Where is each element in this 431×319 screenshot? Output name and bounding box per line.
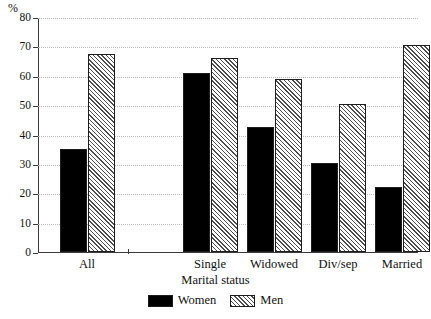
x-tick-label: Widowed: [250, 258, 298, 271]
bar-single-women: [183, 73, 210, 252]
bar-married-women: [375, 187, 402, 253]
legend-item-women: Women: [148, 294, 217, 307]
legend-label-men: Men: [260, 294, 283, 307]
y-tick-mark: [33, 18, 38, 19]
y-tick-label: 0: [25, 247, 31, 259]
chart-legend: Women Men: [0, 294, 431, 307]
hatched-swatch-icon: [230, 295, 255, 307]
y-tick-label: 70: [20, 42, 32, 54]
axis-break-tick: [128, 249, 129, 254]
x-axis-title: Marital status: [0, 274, 431, 287]
y-tick-label: 60: [20, 71, 32, 83]
bar-group: [311, 18, 366, 252]
y-tick-mark: [33, 106, 38, 107]
y-tick-mark: [33, 47, 38, 48]
y-tick-mark: [33, 136, 38, 137]
y-tick-label: 30: [20, 159, 32, 171]
bar-all-men: [88, 54, 115, 252]
y-tick-label: 50: [20, 100, 32, 112]
y-tick-mark: [33, 253, 38, 254]
bar-group: [60, 18, 115, 252]
y-tick-mark: [33, 77, 38, 78]
x-tick-label: Div/sep: [319, 258, 358, 271]
legend-item-men: Men: [230, 294, 283, 307]
y-axis-unit-label: %: [8, 2, 18, 14]
x-tick-label: Single: [194, 258, 226, 271]
y-tick-mark: [33, 194, 38, 195]
bar-group: [375, 18, 430, 252]
y-tick-label: 20: [20, 189, 32, 201]
bar-married-men: [403, 45, 430, 252]
x-tick-label: All: [79, 258, 95, 271]
y-tick-label: 80: [20, 12, 32, 24]
y-tick-label: 40: [20, 130, 32, 142]
x-axis-line: [38, 252, 418, 253]
bar-div-sep-women: [311, 163, 338, 252]
bar-div-sep-men: [339, 104, 366, 252]
y-tick-label: 10: [20, 218, 32, 230]
x-tick-label: Married: [382, 258, 422, 271]
bar-chart: % 01020304050607080 AllSingleWidowedDiv/…: [0, 0, 431, 319]
solid-black-swatch-icon: [148, 295, 173, 307]
bar-widowed-women: [247, 127, 274, 252]
bar-group: [183, 18, 238, 252]
y-tick-mark: [33, 224, 38, 225]
plot-area: 01020304050607080: [38, 18, 418, 253]
legend-label-women: Women: [178, 294, 217, 307]
bar-all-women: [60, 149, 87, 252]
bar-group: [247, 18, 302, 252]
bar-widowed-men: [275, 79, 302, 252]
bar-single-men: [211, 58, 238, 252]
y-tick-mark: [33, 165, 38, 166]
